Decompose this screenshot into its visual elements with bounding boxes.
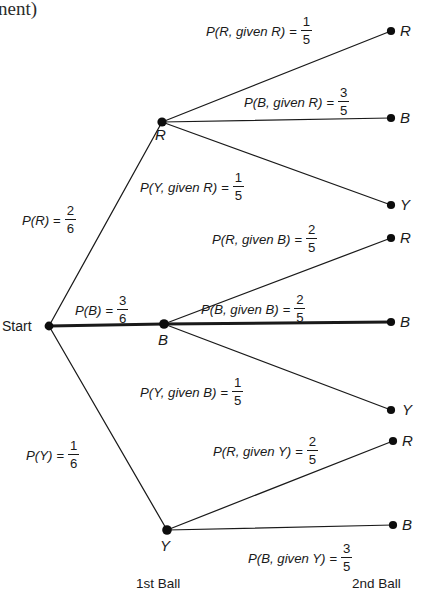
- fraction-bar: [307, 450, 318, 451]
- node-dot-stage2-YB: [389, 521, 397, 529]
- tree-diagram-canvas: nent): [0, 0, 425, 600]
- prob-label-P-B-given-Y-numerator: 3: [342, 542, 351, 555]
- prob-label-P-R-prefix: P(R): [22, 214, 49, 227]
- prob-label-P-B-given-B-fraction: 2 5: [294, 293, 305, 324]
- node-dot-stage1-Y: [162, 525, 172, 535]
- prob-label-P-B-given-B-denominator: 5: [295, 311, 304, 324]
- fraction-bar: [65, 219, 76, 220]
- node-dot-stage1-B: [159, 319, 169, 329]
- node-label-stage1-B: B: [158, 331, 168, 348]
- prob-label-P-Y-given-R: P(Y, given R) = 1 5: [140, 172, 244, 203]
- prob-label-P-B-numerator: 3: [118, 294, 127, 307]
- prob-label-P-Y-given-B-denominator: 5: [233, 394, 242, 407]
- prob-label-P-Y-given-B: P(Y, given B) = 1 5: [140, 377, 243, 408]
- node-label-stage2-RB: B: [400, 109, 410, 126]
- fraction-bar: [306, 238, 317, 239]
- prob-label-P-R-given-R-numerator: 1: [302, 15, 311, 28]
- node-label-stage2-RY: Y: [400, 196, 410, 213]
- prob-label-P-R-equals: =: [53, 214, 61, 227]
- prob-label-P-Y-given-R-denominator: 5: [234, 189, 243, 202]
- prob-label-P-B-prefix: P(B): [75, 304, 101, 317]
- prob-label-P-R-given-B-denominator: 5: [307, 241, 316, 254]
- prob-label-P-R-given-B-prefix: P(R, given B): [212, 233, 290, 246]
- prob-label-P-B-denominator: 6: [118, 312, 127, 325]
- prob-label-P-B: P(B) = 3 6: [75, 295, 128, 326]
- prob-label-P-B-given-R: P(B, given R) = 3 5: [244, 87, 349, 118]
- prob-label-P-R-given-B-fraction: 2 5: [306, 223, 317, 254]
- prob-label-P-R-given-R-denominator: 5: [302, 33, 311, 46]
- node-dot-stage2-RB: [387, 114, 395, 122]
- node-label-stage2-YB: B: [402, 516, 412, 533]
- prob-label-P-R-fraction: 2 6: [65, 204, 76, 235]
- node-label-stage2-BR: R: [400, 229, 411, 246]
- prob-label-P-B-given-Y: P(B, given Y) = 3 5: [248, 543, 352, 574]
- prob-label-P-B-given-B-equals: =: [283, 303, 291, 316]
- fraction-bar: [117, 309, 128, 310]
- prob-label-P-B-given-R-fraction: 3 5: [338, 86, 349, 117]
- fraction-bar: [233, 186, 244, 187]
- prob-label-P-R-given-R-equals: =: [289, 25, 297, 38]
- prob-label-P-R-given-R: P(R, given R) = 1 5: [206, 16, 312, 47]
- prob-label-P-Y: P(Y) = 1 6: [26, 440, 79, 471]
- node-dot-stage2-BY: [387, 406, 395, 414]
- node-label-stage1-R: R: [155, 126, 166, 143]
- axis-label-2nd-ball: 2nd Ball: [352, 576, 401, 591]
- fraction-bar: [232, 391, 243, 392]
- prob-label-P-Y-denominator: 6: [69, 457, 78, 470]
- prob-label-P-B-given-Y-prefix: P(B, given Y): [248, 552, 325, 565]
- prob-label-P-B-given-Y-denominator: 5: [342, 560, 351, 573]
- prob-label-P-Y-given-B-equals: =: [220, 386, 228, 399]
- prob-label-P-R-given-Y-equals: =: [295, 445, 303, 458]
- prob-label-P-R-given-R-fraction: 1 5: [301, 15, 312, 46]
- prob-label-P-B-given-B-numerator: 2: [295, 293, 304, 306]
- prob-label-P-Y-given-R-prefix: P(Y, given R): [140, 181, 217, 194]
- fraction-bar: [68, 454, 79, 455]
- prob-label-P-Y-prefix: P(Y): [26, 449, 52, 462]
- prob-label-P-R-given-Y-denominator: 5: [308, 453, 317, 466]
- prob-label-P-R-given-Y-numerator: 2: [308, 435, 317, 448]
- prob-label-P-R-given-Y-prefix: P(R, given Y): [213, 445, 291, 458]
- node-dot-stage2-RR: [387, 27, 395, 35]
- node-dot-stage2-BB: [387, 318, 395, 326]
- prob-label-P-R: P(R) = 2 6: [22, 205, 76, 236]
- prob-label-P-B-given-Y-equals: =: [329, 552, 337, 565]
- node-dot-stage2-YR: [389, 437, 397, 445]
- branch-R-to-B: [162, 118, 391, 122]
- fraction-bar: [338, 101, 349, 102]
- prob-label-P-Y-given-R-fraction: 1 5: [233, 171, 244, 202]
- prob-label-P-R-given-R-prefix: P(R, given R): [206, 25, 285, 38]
- prob-label-P-R-given-Y: P(R, given Y) = 2 5: [213, 436, 318, 467]
- prob-label-P-Y-fraction: 1 6: [68, 439, 79, 470]
- prob-label-P-Y-given-B-numerator: 1: [233, 376, 242, 389]
- node-label-stage2-BB: B: [400, 313, 410, 330]
- branch-Y-to-B: [167, 525, 393, 530]
- axis-label-1st-ball: 1st Ball: [136, 576, 180, 591]
- fraction-bar: [294, 308, 305, 309]
- node-label-stage2-BY: Y: [402, 401, 412, 418]
- prob-label-P-B-given-B: P(B, given B) = 2 5: [201, 294, 305, 325]
- prob-label-P-B-given-R-denominator: 5: [339, 104, 348, 117]
- prob-label-P-R-given-Y-fraction: 2 5: [307, 435, 318, 466]
- prob-label-P-Y-given-B-prefix: P(Y, given B): [140, 386, 216, 399]
- prob-label-P-B-fraction: 3 6: [117, 294, 128, 325]
- branch-start-to-Y: [49, 326, 167, 530]
- prob-label-P-Y-given-R-numerator: 1: [234, 171, 243, 184]
- node-dot-stage2-BR: [387, 234, 395, 242]
- prob-label-P-B-given-Y-fraction: 3 5: [341, 542, 352, 573]
- prob-label-P-B-given-R-prefix: P(B, given R): [244, 96, 322, 109]
- prob-label-P-B-given-R-equals: =: [326, 96, 334, 109]
- node-dot-start: [45, 322, 54, 331]
- prob-label-P-R-numerator: 2: [66, 204, 75, 217]
- prob-label-P-R-denominator: 6: [66, 222, 75, 235]
- node-label-stage2-YR: R: [402, 432, 413, 449]
- fraction-bar: [301, 30, 312, 31]
- prob-label-P-B-given-R-numerator: 3: [339, 86, 348, 99]
- prob-label-P-R-given-B-numerator: 2: [307, 223, 316, 236]
- node-label-stage2-RR: R: [400, 22, 411, 39]
- prob-label-P-B-equals: =: [105, 304, 113, 317]
- prob-label-P-Y-numerator: 1: [69, 439, 78, 452]
- prob-label-P-B-given-B-prefix: P(B, given B): [201, 303, 279, 316]
- prob-label-P-Y-equals: =: [56, 449, 64, 462]
- prob-label-P-R-given-B: P(R, given B) = 2 5: [212, 224, 317, 255]
- node-dot-stage2-RY: [387, 201, 395, 209]
